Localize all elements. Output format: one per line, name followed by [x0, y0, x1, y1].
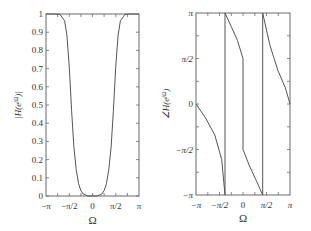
magnitude-x-ticks — [58, 14, 128, 196]
xtick-label: 0 — [241, 200, 246, 210]
phase-x-tick-labels: −π −π/2 0 π/2 π — [191, 200, 293, 210]
ytick-label: 0.3 — [32, 136, 44, 146]
ytick-label: 0.1 — [32, 173, 43, 183]
xtick-label: π/2 — [110, 201, 122, 211]
ytick-label: −π/2 — [175, 145, 193, 155]
magnitude-y-ticks — [46, 32, 139, 196]
ytick-label: 0 — [39, 191, 44, 201]
ytick-label: π/2 — [181, 54, 193, 64]
xtick-label: −π/2 — [61, 201, 78, 211]
phase-plot: −π −π/2 0 π/2 π −π −π/2 0 π/2 π Ω ∠H(ejΩ… — [161, 8, 293, 224]
ytick-label: −π — [182, 190, 193, 200]
figure: 0 0.1 0.2 0.3 0.4 0.5 0.6 0.7 0.8 0.9 1 … — [0, 0, 311, 231]
ytick-label: 0.9 — [32, 27, 44, 37]
xtick-label: π — [288, 200, 293, 210]
xtick-label: π/2 — [261, 200, 273, 210]
magnitude-x-axis-label: Ω — [88, 214, 96, 226]
ytick-label: 0.4 — [32, 118, 44, 128]
xtick-label: −π — [191, 200, 202, 210]
ytick-label: 0.5 — [32, 100, 44, 110]
phase-curve — [196, 13, 290, 195]
phase-y-tick-labels: −π −π/2 0 π/2 π — [175, 8, 193, 200]
xtick-label: π — [137, 201, 142, 211]
ytick-label: 0.2 — [32, 155, 43, 165]
ytick-label: 0.6 — [32, 82, 44, 92]
magnitude-y-tick-labels: 0 0.1 0.2 0.3 0.4 0.5 0.6 0.7 0.8 0.9 1 — [32, 9, 44, 201]
magnitude-x-tick-labels: −π −π/2 0 π/2 π — [41, 201, 142, 211]
ytick-label: 0.8 — [32, 45, 44, 55]
magnitude-y-axis-label: |H(ejΩ)| — [13, 91, 23, 118]
phase-y-axis-label: ∠H(ejΩ) — [161, 89, 171, 120]
ytick-label: 0.7 — [32, 64, 44, 74]
magnitude-plot: 0 0.1 0.2 0.3 0.4 0.5 0.6 0.7 0.8 0.9 1 … — [13, 9, 142, 226]
ytick-label: π — [188, 8, 193, 18]
ytick-label: 0 — [189, 99, 194, 109]
magnitude-curve — [46, 14, 139, 196]
xtick-label: −π — [41, 201, 51, 211]
magnitude-axes-frame — [46, 14, 139, 196]
ytick-label: 1 — [39, 9, 44, 19]
xtick-label: −π/2 — [211, 200, 229, 210]
xtick-label: 0 — [90, 201, 95, 211]
phase-x-axis-label: Ω — [239, 212, 247, 224]
